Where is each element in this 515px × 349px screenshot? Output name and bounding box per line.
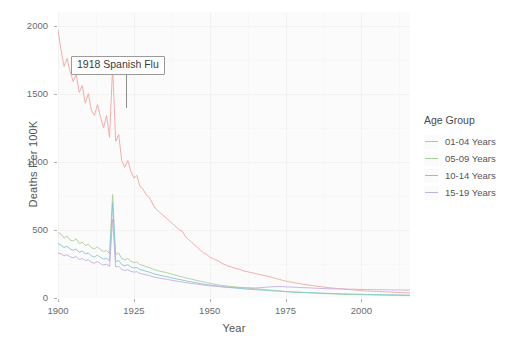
legend-title: Age Group [424,114,514,126]
x-tick-mark [361,299,362,302]
legend-item[interactable]: 15-19 Years [424,184,514,201]
legend-item[interactable]: 05-09 Years [424,150,514,167]
x-tick-label: 1975 [266,305,306,316]
y-tick-mark [54,94,57,95]
x-tick-mark [58,299,59,302]
legend-item[interactable]: 10-14 Years [424,167,514,184]
y-tick-mark [54,162,57,163]
y-tick-label: 1000 [8,156,48,167]
x-tick-mark [134,299,135,302]
x-tick-mark [286,299,287,302]
chart-container: Deaths Per 100K Year 0500100015002000 19… [0,0,515,349]
y-tick-label: 500 [8,224,48,235]
x-tick-label: 1950 [190,305,230,316]
series-lines [58,12,410,298]
y-tick-mark [54,26,57,27]
annotation-leader-line [126,75,127,108]
legend-label: 15-19 Years [445,187,496,198]
legend-label: 01-04 Years [445,136,496,147]
y-tick-mark [54,230,57,231]
y-tick-mark [54,298,57,299]
legend: Age Group 01-04 Years05-09 Years10-14 Ye… [424,114,514,201]
legend-key-icon [424,152,439,166]
legend-label: 10-14 Years [445,170,496,181]
x-axis-title: Year [58,322,410,334]
annotation-spanish-flu: 1918 Spanish Flu [71,56,165,75]
legend-key-icon [424,186,439,200]
legend-label: 05-09 Years [445,153,496,164]
y-tick-label: 0 [8,292,48,303]
plot-panel [58,12,410,298]
legend-key-icon [424,169,439,183]
y-tick-label: 1500 [8,88,48,99]
x-tick-label: 2000 [341,305,381,316]
x-tick-mark [210,299,211,302]
legend-key-icon [424,135,439,149]
legend-items: 01-04 Years05-09 Years10-14 Years15-19 Y… [424,133,514,201]
legend-item[interactable]: 01-04 Years [424,133,514,150]
y-tick-label: 2000 [8,20,48,31]
x-tick-label: 1900 [38,305,78,316]
x-tick-label: 1925 [114,305,154,316]
